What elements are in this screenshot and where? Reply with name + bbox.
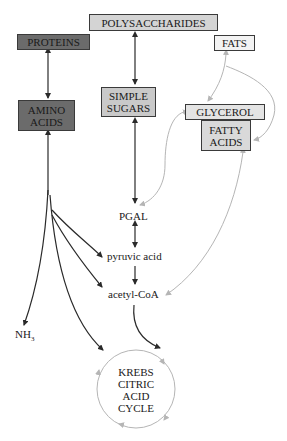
node-glycerol: GLYCEROL xyxy=(185,104,265,120)
node-label: ACIDS xyxy=(30,116,63,128)
node-label: SIMPLE xyxy=(109,90,148,102)
node-nh3: NH3 xyxy=(15,328,34,343)
node-fats: FATS xyxy=(214,35,255,51)
cycle-arrow-icon xyxy=(164,416,167,420)
node-krebs-cycle: KREBS CITRIC ACID CYCLE xyxy=(106,366,166,414)
node-label: FATTY xyxy=(209,124,242,136)
arrow-fattyacids-acetyl xyxy=(166,152,243,295)
cycle-arrow-icon xyxy=(98,370,99,375)
node-pgal: PGAL xyxy=(119,210,148,222)
arrow-amino-krebs xyxy=(50,195,103,350)
node-pyruvic-acid: pyruvic acid xyxy=(107,250,162,262)
node-label: FATS xyxy=(222,37,247,49)
arrow-amino-pyruvic xyxy=(52,210,102,257)
node-label: ACIDS xyxy=(209,136,242,148)
node-amino-acids: AMINOACIDS xyxy=(18,100,75,131)
node-label: KREBS xyxy=(118,366,153,378)
node-label: ACID xyxy=(123,390,150,402)
node-label: AMINO xyxy=(28,104,65,116)
node-label: POLYSACCHARIDES xyxy=(101,17,205,29)
node-label: SUGARS xyxy=(107,102,150,114)
arrow-amino-acetyl xyxy=(52,215,102,287)
node-polysaccharides: POLYSACCHARIDES xyxy=(89,14,218,31)
node-proteins: PROTEINS xyxy=(17,34,90,50)
node-fatty-acids: FATTYACIDS xyxy=(201,120,251,151)
node-label: NH xyxy=(15,328,31,340)
arrow-fats-glycerol xyxy=(208,54,226,101)
arrow-acetyl-krebs xyxy=(134,305,160,348)
node-simple-sugars: SIMPLESUGARS xyxy=(101,87,156,117)
arrow-glycerol-pgal xyxy=(140,112,184,205)
node-acetyl-coa: acetyl-CoA xyxy=(108,288,159,300)
arrow-amino-nh3 xyxy=(24,190,48,325)
node-subscript: 3 xyxy=(31,335,35,343)
node-label: CITRIC xyxy=(118,378,154,390)
node-label: CYCLE xyxy=(118,402,154,414)
node-label: PROTEINS xyxy=(27,36,80,48)
node-label: GLYCEROL xyxy=(196,106,254,118)
